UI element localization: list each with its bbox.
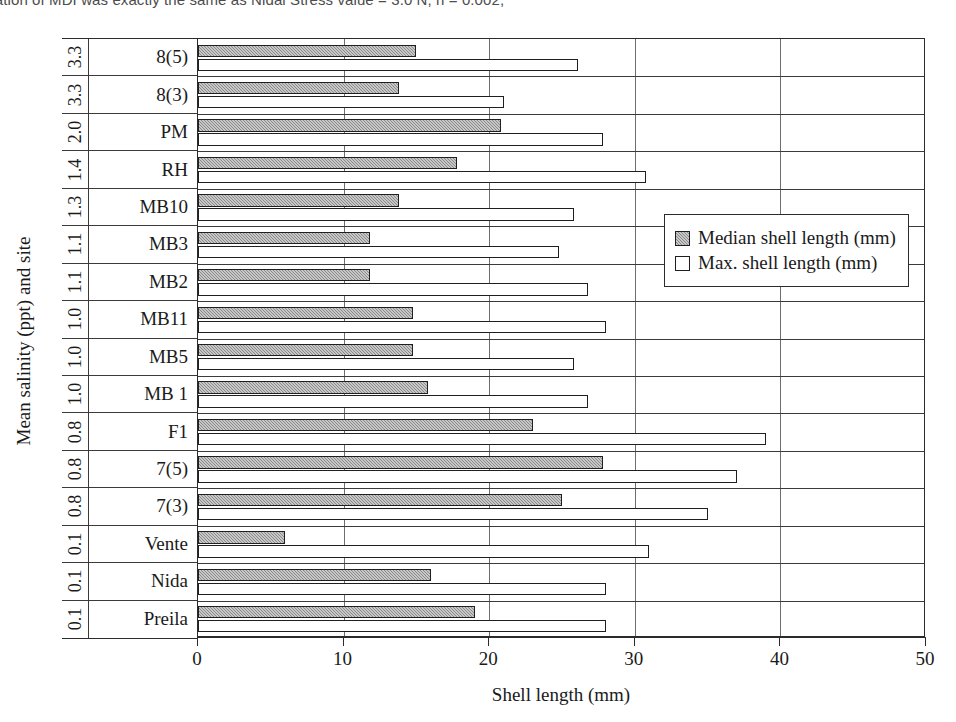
bar-group <box>198 376 924 413</box>
legend-label-max: Max. shell length (mm) <box>698 252 877 274</box>
site-name: MB 1 <box>89 376 197 412</box>
bar-group <box>198 563 924 600</box>
salinity-cell: 1.3 <box>62 189 89 225</box>
row-label: 3.38(5) <box>62 39 197 76</box>
site-name: MB2 <box>89 264 197 300</box>
bar-max <box>198 433 766 445</box>
site-name: PM <box>89 114 197 150</box>
salinity-cell: 3.3 <box>62 39 89 75</box>
salinity-value: 0.1 <box>65 533 86 556</box>
bar-max <box>198 283 588 295</box>
site-name: Nida <box>89 563 197 599</box>
x-tick <box>343 637 344 646</box>
x-axis-title: Shell length (mm) <box>197 684 925 706</box>
salinity-value: 0.1 <box>65 608 86 631</box>
salinity-value: 1.0 <box>65 308 86 331</box>
row-label: 0.87(5) <box>62 451 197 488</box>
row-label: 1.0MB 1 <box>62 376 197 413</box>
x-axis-line <box>197 637 925 638</box>
salinity-cell: 0.8 <box>62 488 89 524</box>
site-name: 7(3) <box>89 488 197 524</box>
plot-area <box>197 38 925 637</box>
bar-group <box>198 488 924 525</box>
bar-group <box>198 39 924 76</box>
bar-group <box>198 413 924 450</box>
bar-median <box>198 307 413 319</box>
bar-median <box>198 45 416 57</box>
row-label: 1.0MB5 <box>62 339 197 376</box>
site-name: MB3 <box>89 226 197 262</box>
salinity-cell: 1.4 <box>62 151 89 187</box>
bar-median <box>198 82 399 94</box>
row-label: 1.1MB2 <box>62 264 197 301</box>
x-tick-label: 50 <box>895 648 955 670</box>
salinity-value: 1.0 <box>65 383 86 406</box>
x-tick <box>925 637 926 646</box>
bar-median <box>198 157 457 169</box>
salinity-cell: 0.1 <box>62 563 89 599</box>
x-tick <box>197 637 198 646</box>
x-tick-label: 10 <box>313 648 373 670</box>
x-tick <box>634 637 635 646</box>
bar-median <box>198 531 285 543</box>
bar-group <box>198 339 924 376</box>
bar-median <box>198 606 475 618</box>
bar-max <box>198 583 606 595</box>
salinity-cell: 3.3 <box>62 76 89 112</box>
site-name: F1 <box>89 413 197 449</box>
bar-max <box>198 358 574 370</box>
salinity-value: 3.3 <box>65 46 86 69</box>
bar-median <box>198 344 413 356</box>
legend-item-max: Max. shell length (mm) <box>675 252 896 274</box>
salinity-cell: 1.1 <box>62 226 89 262</box>
site-name: RH <box>89 151 197 187</box>
bar-max <box>198 470 737 482</box>
salinity-cell: 1.0 <box>62 301 89 337</box>
bar-max <box>198 508 708 520</box>
bar-median <box>198 381 428 393</box>
salinity-value: 0.8 <box>65 458 86 481</box>
bar-group <box>198 76 924 113</box>
salinity-value: 1.3 <box>65 196 86 219</box>
x-tick-label: 30 <box>604 648 664 670</box>
row-label: 0.1Nida <box>62 563 197 600</box>
y-axis-title: Mean salinity (ppt) and site <box>13 126 35 556</box>
bar-max <box>198 96 504 108</box>
salinity-value: 0.8 <box>65 420 86 443</box>
legend-swatch-max <box>675 256 690 271</box>
salinity-value: 1.0 <box>65 345 86 368</box>
row-label-table: 3.38(5)3.38(3)2.0PM1.4RH1.3MB101.1MB31.1… <box>62 38 197 639</box>
salinity-value: 1.4 <box>65 158 86 181</box>
salinity-value: 1.1 <box>65 271 86 294</box>
bar-max <box>198 246 559 258</box>
legend-swatch-median <box>675 231 690 246</box>
bar-median <box>198 569 431 581</box>
bar-median <box>198 232 370 244</box>
site-name: MB10 <box>89 189 197 225</box>
bar-max <box>198 59 578 71</box>
bar-group <box>198 114 924 151</box>
row-label: 0.1Preila <box>62 601 197 638</box>
bar-group <box>198 151 924 188</box>
salinity-value: 1.1 <box>65 233 86 256</box>
x-tick-label: 0 <box>167 648 227 670</box>
x-tick-label: 40 <box>749 648 809 670</box>
salinity-cell: 1.0 <box>62 376 89 412</box>
bar-median <box>198 119 501 131</box>
row-label: 3.38(3) <box>62 76 197 113</box>
legend-label-median: Median shell length (mm) <box>698 227 896 249</box>
site-name: Vente <box>89 526 197 562</box>
bar-max <box>198 545 649 557</box>
bar-group <box>198 601 924 638</box>
x-tick-label: 20 <box>458 648 518 670</box>
bar-median <box>198 194 399 206</box>
bar-median <box>198 456 603 468</box>
site-name: MB5 <box>89 339 197 375</box>
salinity-cell: 0.8 <box>62 413 89 449</box>
legend: Median shell length (mm) Max. shell leng… <box>664 214 909 287</box>
row-label: 2.0PM <box>62 114 197 151</box>
row-label: 1.4RH <box>62 151 197 188</box>
site-name: MB11 <box>89 301 197 337</box>
row-label: 0.87(3) <box>62 488 197 525</box>
salinity-cell: 1.0 <box>62 339 89 375</box>
